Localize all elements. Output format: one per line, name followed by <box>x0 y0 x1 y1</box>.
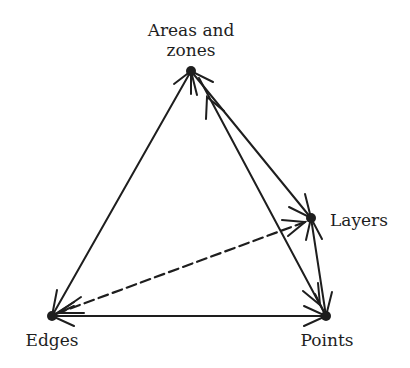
label-areas-and-zones: Areas and zones <box>148 20 235 60</box>
label-layers: Layers <box>330 210 388 230</box>
arrowhead-at-layers-from-edges <box>282 220 305 236</box>
arrowhead-at-points-from-areas <box>303 283 320 305</box>
node-dot-edges <box>47 311 57 321</box>
connector-areas-layers <box>191 71 311 218</box>
node-dot-points <box>321 311 331 321</box>
label-areas-line2: zones <box>148 40 235 60</box>
label-edges: Edges <box>26 330 79 350</box>
connector-layers-edges-dashed <box>58 222 305 313</box>
connector-areas-points <box>199 78 326 316</box>
connector-areas-edges <box>52 71 191 316</box>
node-dot-layers <box>306 213 316 223</box>
label-areas-line1: Areas and <box>148 20 235 40</box>
node-dot-areas <box>186 66 196 76</box>
label-points: Points <box>301 330 354 350</box>
